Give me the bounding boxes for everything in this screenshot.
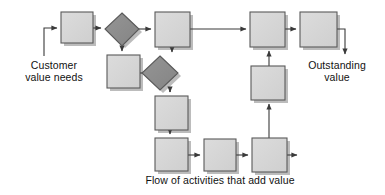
- process-node-p2: [155, 12, 190, 47]
- process-node-p4: [155, 96, 188, 130]
- flowchart-canvas: [0, 0, 385, 195]
- decision-node-d1: [105, 13, 139, 46]
- process-node-p7: [252, 138, 287, 172]
- caption-label: Flow of activities that add value: [120, 174, 320, 186]
- output-label: Outstanding value: [288, 59, 385, 83]
- process-node-p5: [155, 138, 188, 171]
- process-node-p6: [204, 139, 236, 171]
- shape-shadows: [64, 15, 340, 175]
- input-label: Customer value needs: [0, 59, 108, 83]
- output-label-line1: Outstanding: [288, 59, 385, 71]
- process-node-p10: [300, 12, 337, 47]
- decision-node-d2: [142, 56, 178, 90]
- process-node-p8: [251, 66, 285, 100]
- input-label-line1: Customer: [0, 59, 108, 71]
- process-node-p9: [250, 12, 285, 47]
- edge-input-p1: [44, 28, 57, 56]
- process-node-p1: [61, 12, 93, 43]
- process-node-p3: [107, 55, 140, 88]
- process-nodes: [61, 12, 337, 172]
- output-label-line2: value: [288, 71, 385, 83]
- input-label-line2: value needs: [0, 71, 108, 83]
